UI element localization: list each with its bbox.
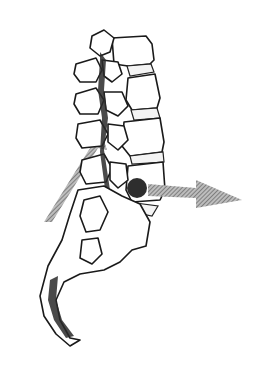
lesion-dot-icon <box>127 178 147 198</box>
spine-illustration <box>0 0 260 373</box>
